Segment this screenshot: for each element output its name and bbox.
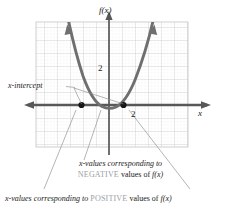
annotation-positive-fx: f(x): [161, 194, 172, 203]
x-intercept-right-dot: [120, 102, 126, 108]
grid-major: [36, 22, 188, 147]
annotation-negative-fx: f(x): [152, 170, 163, 179]
annotation-positive-keyword: POSITIVE: [90, 194, 127, 203]
y-axis-label: f(x): [99, 6, 112, 15]
annotation-positive: x-values corresponding to POSITIVE value…: [5, 195, 172, 203]
graph-canvas: [0, 0, 236, 212]
annotation-negative-rest: values of: [119, 170, 152, 179]
x-axis-label: x: [198, 109, 202, 118]
x-axis-tick-2: 2: [131, 110, 136, 119]
annotation-positive-middle: values of: [127, 194, 160, 203]
annotation-x-intercept: x-intercept: [8, 82, 42, 90]
graph-figure: f(x) x 2 2 x-intercept x-values correspo…: [0, 0, 236, 212]
annotation-negative: x-values corresponding to NEGATIVE value…: [58, 160, 183, 179]
annotation-negative-line1: x-values corresponding to: [79, 159, 162, 168]
annotation-negative-keyword: NEGATIVE: [78, 170, 119, 179]
y-axis-tick-2: 2: [98, 64, 103, 73]
x-intercept-left-dot: [78, 102, 84, 108]
annotation-positive-prefix: x-values corresponding to: [5, 194, 90, 203]
